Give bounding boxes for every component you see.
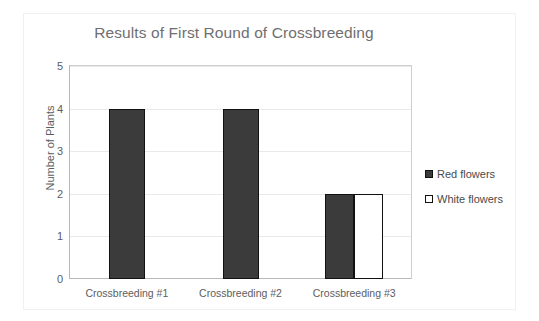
chart-container: Results of First Round of Crossbreeding … (23, 13, 516, 310)
bar-red-flowers (109, 109, 145, 279)
y-axis-tick-label: 3 (57, 145, 63, 157)
legend-item: Red flowers (425, 164, 503, 183)
gridline (70, 66, 411, 67)
clipped-text-remnant (60, 0, 200, 5)
y-axis-tick-label: 1 (57, 230, 63, 242)
bar-white-flowers (354, 194, 383, 279)
x-axis-tick-label: Crossbreeding #1 (85, 287, 168, 299)
chart-legend: Red flowersWhite flowers (425, 164, 503, 214)
plot-area: 012345 Crossbreeding #1Crossbreeding #2C… (69, 65, 412, 279)
y-axis-tick-label: 4 (57, 103, 63, 115)
chart-title: Results of First Round of Crossbreeding (24, 24, 444, 42)
y-axis-tick-label: 5 (57, 60, 63, 72)
x-axis-tick-label: Crossbreeding #3 (313, 287, 396, 299)
bar-red-flowers (325, 194, 354, 279)
x-axis-tick-label: Crossbreeding #2 (199, 287, 282, 299)
y-axis-tick-label: 2 (57, 188, 63, 200)
legend-item-label: White flowers (437, 193, 503, 205)
y-axis-title: Number of Plants (44, 88, 56, 208)
red-filled-square-icon (425, 170, 433, 178)
bar-red-flowers (223, 109, 259, 279)
legend-item: White flowers (425, 189, 503, 208)
white-square-icon (425, 195, 433, 203)
legend-item-label: Red flowers (437, 168, 495, 180)
y-axis-tick-label: 0 (57, 273, 63, 285)
